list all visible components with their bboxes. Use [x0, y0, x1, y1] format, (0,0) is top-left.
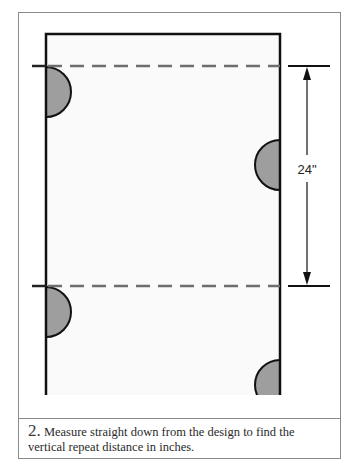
dimension-label: 24" — [297, 162, 316, 177]
repeat-diagram: 24" — [0, 0, 356, 476]
caption-text: Measure straight down from the design to… — [28, 425, 295, 454]
arrowhead-up-icon — [303, 67, 311, 80]
step-number: 2. — [28, 421, 41, 440]
arrowhead-down-icon — [303, 272, 311, 285]
wallpaper-panel — [46, 34, 280, 395]
caption: 2. Measure straight down from the design… — [18, 418, 341, 459]
